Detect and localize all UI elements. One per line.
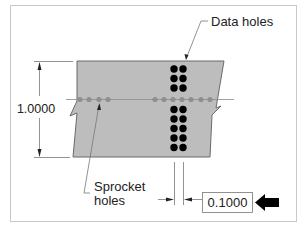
paper-tape xyxy=(70,61,224,157)
height-dim-label: 1.0000 xyxy=(17,102,55,116)
data-holes-label: Data holes xyxy=(211,14,274,29)
sprocket-label-line1: Sprocket xyxy=(94,179,146,194)
punched-tape-diagram: 1.0000 Data holes Sprocket holes 0.1000 xyxy=(0,0,306,231)
spacing-dim-label: 0.1000 xyxy=(208,195,248,210)
sprocket-label-line2: holes xyxy=(94,193,126,208)
